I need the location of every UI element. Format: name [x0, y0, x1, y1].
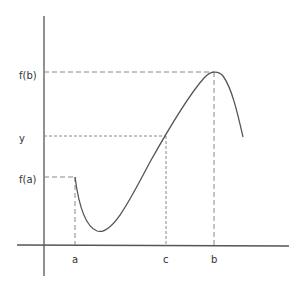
function-curve	[75, 72, 243, 231]
c-label: c	[163, 254, 169, 265]
y-label: y	[19, 133, 25, 144]
fb-label: f(b)	[19, 70, 37, 81]
x-axis	[17, 245, 289, 246]
b-label: b	[211, 254, 217, 265]
fa-label: f(a)	[19, 174, 37, 185]
a-label: a	[72, 254, 78, 265]
ivt-diagram: f(b) y f(a) a c b	[0, 0, 302, 289]
